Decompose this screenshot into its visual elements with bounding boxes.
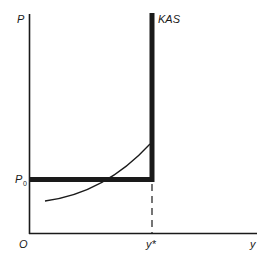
kas-label: KAS (158, 13, 181, 25)
price-axis-label: P (17, 13, 25, 25)
output-axis-label: y (249, 238, 257, 250)
rising-curve (45, 144, 150, 201)
p0-subscript: 0 (23, 180, 27, 187)
p0-label: P (15, 173, 23, 185)
origin-label: O (19, 238, 28, 250)
y-star-label: y* (145, 238, 157, 250)
kas-curve (29, 13, 152, 180)
kas-diagram: P KAS P 0 O y* y (0, 0, 269, 258)
